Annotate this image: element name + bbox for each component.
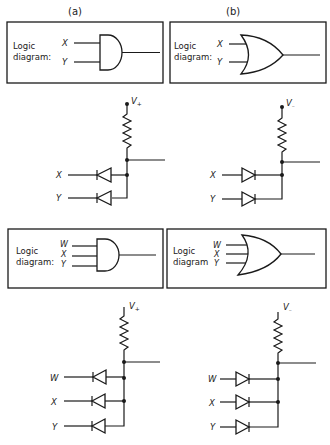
input-label-w: W — [60, 240, 69, 249]
supply-label: V+ — [129, 301, 140, 312]
input-label-x: X — [50, 397, 57, 407]
input-label-y: Y — [56, 193, 62, 203]
diode-icon — [92, 419, 105, 433]
logic-caption-line1: Logic — [174, 41, 197, 51]
or-gate-icon — [238, 235, 281, 275]
diode-icon — [236, 372, 249, 386]
panel-b-label: (b) — [226, 6, 240, 17]
and-gate-3-input-logic-box: Logic diagram: W X Y — [8, 229, 163, 288]
diode-icon — [236, 395, 249, 409]
and-gate-icon — [97, 239, 119, 271]
panel-a-label: (a) — [68, 6, 82, 17]
input-label-w: W — [208, 374, 217, 384]
or-gate-2-input-logic-box: Logic diagram: X Y — [170, 22, 326, 83]
input-label-y: Y — [210, 422, 216, 432]
diode-icon — [92, 394, 105, 408]
diode-icon — [97, 191, 111, 205]
or-gate-3-input-logic-box: Logic diagram W X Y — [167, 229, 326, 288]
resistor-icon — [98, 307, 128, 426]
logic-caption-line2: diagram: — [174, 52, 212, 62]
input-label-x: X — [55, 170, 62, 180]
input-label-x: X — [209, 170, 216, 180]
input-label-x: X — [61, 38, 68, 48]
resistor-icon — [255, 107, 286, 199]
resistor-icon — [112, 104, 131, 198]
diode-icon — [242, 192, 255, 206]
or-diode-circuit-2-input: V– X Y — [209, 98, 320, 206]
input-label-y: Y — [214, 259, 220, 268]
resistor-icon — [249, 312, 282, 427]
logic-caption-line1: Logic — [13, 41, 36, 51]
diode-icon — [97, 168, 111, 182]
and-diode-circuit-2-input: V+ X Y — [55, 96, 165, 205]
input-label-y: Y — [62, 57, 68, 67]
input-label-w: W — [50, 373, 59, 383]
or-diode-circuit-3-input: V– W X Y — [208, 302, 316, 434]
logic-caption-line2: diagram: — [13, 52, 51, 62]
supply-label: V– — [286, 98, 295, 109]
diode-icon — [242, 168, 255, 182]
logic-caption-line1: Logic — [16, 246, 39, 256]
input-label-y: Y — [61, 260, 67, 269]
diode-icon — [236, 420, 249, 434]
logic-caption-line1: Logic — [173, 246, 196, 256]
input-label-y: Y — [210, 194, 216, 204]
and-gate-2-input-logic-box: Logic diagram: X Y — [7, 22, 163, 83]
input-label-x: X — [208, 398, 215, 408]
logic-caption-line2: diagram — [173, 257, 208, 267]
input-label-w: W — [213, 241, 222, 250]
input-label-y: Y — [52, 422, 58, 432]
input-label-x: X — [60, 250, 67, 259]
and-gate-icon — [100, 35, 122, 70]
and-diode-circuit-3-input: V+ W X Y — [50, 301, 160, 433]
diode-icon — [93, 370, 106, 384]
input-label-x: X — [216, 39, 223, 49]
diode-logic-diagram: (a) (b) Logic diagram: X Y Logic diagram… — [0, 0, 330, 445]
supply-label: V– — [283, 302, 292, 313]
input-label-y: Y — [217, 57, 223, 67]
logic-caption-line2: diagram: — [16, 257, 54, 267]
supply-label: V+ — [131, 96, 142, 107]
or-gate-icon — [241, 35, 283, 74]
input-label-x: X — [213, 250, 220, 259]
